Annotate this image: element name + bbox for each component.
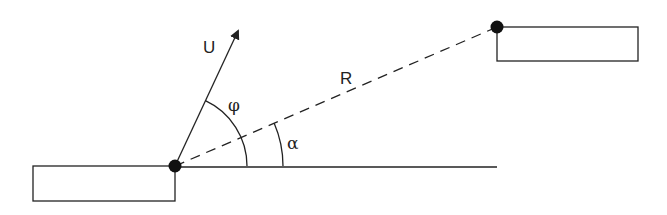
left-block bbox=[33, 166, 175, 201]
distance-line-r bbox=[175, 27, 497, 166]
label-r: R bbox=[340, 69, 352, 88]
target-point bbox=[491, 21, 504, 34]
phi-angle-arc bbox=[205, 101, 247, 166]
right-block bbox=[497, 27, 638, 61]
origin-point bbox=[169, 160, 182, 173]
alpha-angle-arc bbox=[274, 123, 283, 166]
diagram-canvas: U R φ α bbox=[0, 0, 667, 215]
label-phi: φ bbox=[228, 95, 240, 115]
label-alpha: α bbox=[287, 133, 299, 153]
label-u: U bbox=[203, 38, 215, 57]
